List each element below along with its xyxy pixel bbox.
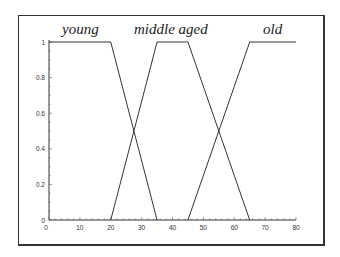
y-tick-label: 0.6 <box>36 110 45 117</box>
x-tick-label: 70 <box>262 224 270 231</box>
y-tick-label: 0.4 <box>36 145 45 152</box>
x-tick-label: 0 <box>44 224 48 231</box>
y-tick-label: 1 <box>41 39 45 46</box>
x-tick-label: 50 <box>200 224 208 231</box>
series-middle-aged <box>111 42 250 220</box>
y-tick-label: 0 <box>41 217 45 224</box>
series-young <box>49 42 157 220</box>
y-tick-label: 0.8 <box>36 74 45 81</box>
y-tick-label: 0.2 <box>36 181 45 188</box>
series-old <box>188 42 296 220</box>
x-tick-label: 10 <box>76 224 84 231</box>
x-tick-label: 30 <box>138 224 146 231</box>
x-tick-label: 60 <box>231 224 239 231</box>
x-tick-label: 80 <box>292 224 300 231</box>
x-tick-label: 20 <box>107 224 115 231</box>
membership-plot: 0102030405060708000.20.40.60.81 <box>0 0 340 257</box>
x-tick-label: 40 <box>169 224 177 231</box>
